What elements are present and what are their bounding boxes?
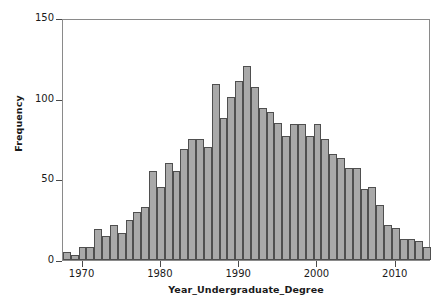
x-tick-mark xyxy=(316,261,317,267)
histogram-bar xyxy=(290,124,298,260)
histogram-bar xyxy=(110,225,118,260)
histogram-bar xyxy=(157,187,165,260)
histogram-bar xyxy=(235,81,243,260)
histogram-bar xyxy=(267,112,275,260)
histogram-bar xyxy=(212,84,220,260)
histogram-bar xyxy=(408,239,416,260)
histogram-bar xyxy=(384,225,392,260)
histogram-bar xyxy=(243,66,251,260)
x-tick-mark xyxy=(238,261,239,267)
histogram-bar xyxy=(71,255,79,260)
histogram-bar xyxy=(102,236,110,260)
histogram-bar xyxy=(180,149,188,260)
histogram-bar xyxy=(298,124,306,260)
plot-area xyxy=(62,19,430,261)
histogram-bar xyxy=(165,163,173,260)
histogram-bar xyxy=(314,124,322,260)
histogram-bar xyxy=(86,247,94,260)
x-tick-label: 2010 xyxy=(365,268,425,279)
histogram-bar xyxy=(345,168,353,260)
histogram-bar xyxy=(133,212,141,260)
histogram-bar xyxy=(259,108,267,260)
histogram-bar xyxy=(220,118,228,260)
histogram-bar xyxy=(353,168,361,260)
histogram-bars xyxy=(63,20,429,260)
x-tick-mark xyxy=(395,261,396,267)
histogram-bar xyxy=(251,87,259,260)
histogram-bar xyxy=(118,233,126,260)
y-tick-label: 100 xyxy=(20,94,54,104)
histogram-bar xyxy=(306,136,314,260)
histogram-bar xyxy=(361,189,369,260)
histogram-bar xyxy=(329,154,337,260)
histogram-bar xyxy=(79,247,87,260)
x-tick-label: 1970 xyxy=(52,268,112,279)
histogram-bar xyxy=(423,247,431,260)
histogram-bar xyxy=(337,158,345,260)
x-tick-mark xyxy=(82,261,83,267)
histogram-bar xyxy=(141,207,149,260)
histogram-bar xyxy=(321,139,329,260)
x-tick-label: 2000 xyxy=(286,268,346,279)
y-tick-label: 0 xyxy=(20,255,54,265)
histogram-bar xyxy=(227,97,235,260)
histogram-bar xyxy=(196,139,204,260)
y-tick-label: 50 xyxy=(20,174,54,184)
histogram-bar xyxy=(368,187,376,260)
x-tick-mark xyxy=(160,261,161,267)
histogram-bar xyxy=(274,123,282,260)
histogram-bar xyxy=(63,252,71,260)
y-tick-mark xyxy=(56,261,62,262)
x-tick-label: 1980 xyxy=(130,268,190,279)
histogram-figure: Frequency 050100150 19701980199020002010… xyxy=(0,0,442,305)
histogram-bar xyxy=(376,205,384,260)
histogram-bar xyxy=(94,229,102,260)
y-tick-label: 150 xyxy=(20,13,54,23)
x-axis-title: Year_Undergraduate_Degree xyxy=(62,284,430,295)
histogram-bar xyxy=(126,220,134,260)
histogram-bar xyxy=(415,241,423,260)
x-tick-label: 1990 xyxy=(208,268,268,279)
histogram-bar xyxy=(188,139,196,260)
histogram-bar xyxy=(173,171,181,260)
histogram-bar xyxy=(149,171,157,260)
histogram-bar xyxy=(282,136,290,260)
histogram-bar xyxy=(204,147,212,260)
histogram-bar xyxy=(392,228,400,260)
histogram-bar xyxy=(400,239,408,260)
